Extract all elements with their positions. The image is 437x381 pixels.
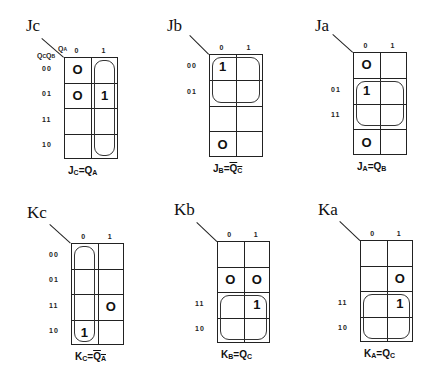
kmap-equation: JB=QC [213,163,242,174]
grouping-loop [212,57,260,103]
kmap-equation: JC=QA [68,165,97,176]
column-header: 1 [108,233,113,240]
kmap-cell [64,134,91,160]
kmap-cell: O [387,266,414,292]
equation-rhs-var: Q [239,349,247,360]
kmap-cell [360,266,387,292]
column-header: 0 [370,230,375,237]
equation-lhs-sub: C [82,355,87,362]
row-header: 01 [42,90,52,97]
kmap-title: Ja [315,16,329,36]
kmap-cell [98,320,125,346]
equation-rhs-sub: A [92,169,97,176]
equation-rhs: QA [93,351,106,362]
kmap-equation: JA=QB [357,161,386,172]
kmap-cell [209,106,236,132]
kmap-cell [380,129,407,155]
column-header: 1 [391,42,396,49]
row-header: 10 [338,324,348,331]
equation-rhs: QB [373,161,386,172]
kmap-cell [98,269,125,295]
kmap-cell: O [353,52,380,78]
column-header: 1 [247,44,252,51]
equation-rhs-sub: C [390,352,395,359]
kmap-cell: O [244,267,271,293]
column-header: 1 [254,231,259,238]
kmap-equation: KA=QC [364,348,395,359]
equation-lhs-sub: A [371,352,376,359]
equation-rhs-var: Q [382,348,390,359]
equation-rhs-var: Q [93,351,101,362]
equation-rhs: QC [229,163,242,174]
kmap-cell: O [217,267,244,293]
equation-rhs-sub: A [101,355,106,362]
kmap-cell [236,131,263,157]
kmap-cell [380,52,407,78]
kmap-cell [217,241,244,267]
row-header: 11 [42,116,51,123]
row-header: 01 [331,86,341,93]
equation-rhs-sub: B [381,165,386,172]
kmap-cell: O [209,131,236,157]
kmap-equation: KB=QC [221,349,252,360]
equation-lhs: J [213,163,219,174]
equation-rhs-sub: C [237,167,242,174]
kmap-title: Kc [27,203,47,223]
row-header: 11 [49,302,58,309]
column-header: 1 [102,47,107,54]
kmap-cell: O [64,57,91,83]
kmap-title: Jb [167,16,182,36]
column-header: 0 [227,231,232,238]
grouping-loop [74,246,95,342]
column-header: 1 [397,230,402,237]
kmap-cell [360,240,387,266]
kmap-title: Ka [318,200,338,220]
row-header: 00 [49,251,59,258]
grouping-loop [94,60,115,156]
corner-diagonal [332,34,353,53]
corner-diagonal [49,224,71,244]
equation-rhs: QC [382,348,395,359]
kmap-title: Jc [26,16,40,36]
corner-diagonal [196,222,217,242]
equation-lhs: J [68,165,74,176]
column-variable-label: QA [58,45,67,52]
grouping-loop [356,81,404,127]
equation-lhs-sub: B [219,167,224,174]
kmap-cell [98,243,125,269]
row-header: 10 [195,325,205,332]
equation-lhs-sub: A [363,165,368,172]
kmap-cell: O [64,83,91,109]
kmap-cell [236,106,263,132]
row-header: 10 [42,141,52,148]
equation-lhs: J [357,161,363,172]
column-header: 0 [364,42,369,49]
row-header: 10 [49,327,59,334]
column-header: 0 [81,233,86,240]
equation-rhs-sub: C [247,353,252,360]
kmap-cell: O [98,294,125,320]
kmap-title: Kb [174,200,195,220]
column-header: 0 [220,44,225,51]
grouping-loop [220,295,267,340]
kmap-cell: O [353,129,380,155]
corner-diagonal [189,35,209,55]
row-header: 01 [187,88,197,95]
row-header: 01 [49,276,59,283]
equation-lhs-sub: C [74,169,79,176]
column-header: 0 [75,47,80,54]
row-header: 00 [42,65,52,72]
row-header: 11 [195,300,204,307]
row-header: 00 [187,62,197,69]
row-header: 11 [338,299,347,306]
kmap-equation: KC=QA [75,351,106,362]
grouping-loop [363,294,410,339]
corner-diagonal [339,221,360,241]
kmap-cell [244,241,271,267]
equation-lhs-sub: B [228,353,233,360]
row-variable-label: QCQB [37,52,55,59]
equation-rhs: QC [239,349,252,360]
kmap-cell [64,108,91,134]
kmap-cell [387,240,414,266]
equation-rhs: QA [84,165,97,176]
